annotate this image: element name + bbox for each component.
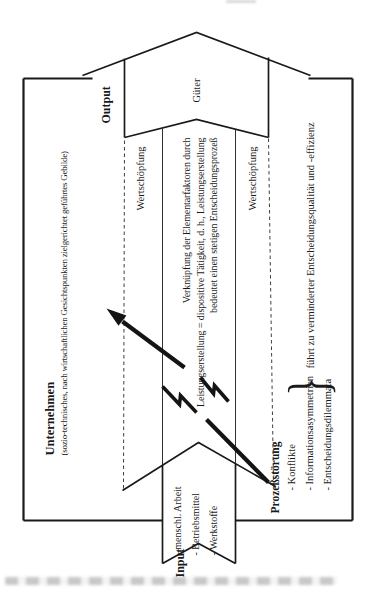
process-arrow-shaft-upper xyxy=(122,321,184,367)
input-item: - Betriebsmittel xyxy=(186,486,204,555)
disturbance-title: Prozeßstörung xyxy=(268,441,280,513)
company-subtitle: (sozio-technisches, nach wirtschaftliche… xyxy=(58,151,68,455)
central-line-2-text: dispositive Tätigkeit, d. h., Leistungse… xyxy=(194,137,205,320)
figure-rotated-canvas: Unternehmen (sozio-technisches, nach wir… xyxy=(0,0,388,589)
central-line-2: Leistungserstellung = dispositive Tätigk… xyxy=(193,137,207,406)
gueter-label: Güter xyxy=(190,78,201,102)
input-item: - menschl. Arbeit xyxy=(168,486,186,555)
disturbance-brace-icon: } xyxy=(276,377,341,396)
funnel-dashed-line-upper xyxy=(123,138,124,488)
process-arrow-label: Leistungserstellung = xyxy=(194,322,205,406)
central-statement: Verknüpfung der Elementarfaktoren durch … xyxy=(179,137,220,406)
output-label: Output xyxy=(98,86,113,123)
funnel-dashed-line-lower xyxy=(268,138,273,486)
scanned-page: Unternehmen (sozio-technisches, nach wir… xyxy=(0,0,388,589)
wertschoepfung-lower-label: Wertschöpfung xyxy=(246,142,257,214)
central-line-1: Verknüpfung der Elementarfaktoren durch xyxy=(179,137,193,406)
disturbance-consequence: führt zu verminderter Entscheidungsquali… xyxy=(304,122,315,368)
cropped-caption-smudge xyxy=(5,577,337,585)
disturbance-leader-line xyxy=(206,419,268,482)
central-line-3: bedeutet einen stetigen Entscheidungspro… xyxy=(206,137,220,406)
scan-smudge xyxy=(226,0,256,3)
wertschoepfung-upper-label: Wertschöpfung xyxy=(134,142,145,214)
input-items: - menschl. Arbeit - Betriebsmittel - Wer… xyxy=(168,486,222,555)
input-item: - Werkstoffe xyxy=(204,486,222,555)
company-title: Unternehmen xyxy=(42,381,57,455)
